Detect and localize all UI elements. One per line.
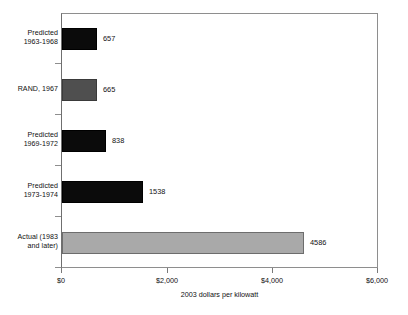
x-axis-tick-3 [377,268,378,273]
bar-0 [62,28,97,50]
chart-row-2: Predicted 1969-1972 838 [0,130,408,152]
category-label-1: RAND, 1967 [0,85,58,94]
bar-3 [62,181,143,203]
category-label-0: Predicted 1963-1968 [0,29,58,46]
category-label-3: Predicted 1973-1974 [0,182,58,199]
bar-chart-figure: Predicted 1963-1968 657 RAND, 1967 665 P… [0,0,408,315]
x-axis-label-2: $4,000 [242,276,302,285]
x-axis-tick-0 [61,268,62,273]
bar-4 [62,232,304,254]
bar-value-1: 665 [103,85,115,94]
category-label-4: Actual (1983 and later) [0,233,58,250]
x-axis-title: 2003 dollars per kilowatt [61,290,378,299]
chart-row-1: RAND, 1967 665 [0,79,408,101]
y-axis-tick-1 [55,114,61,115]
chart-row-4: Actual (1983 and later) 4586 [0,232,408,254]
y-axis-tick-0 [55,63,61,64]
bar-value-3: 1538 [149,187,165,196]
bar-value-0: 657 [103,34,115,43]
y-axis-tick-2 [55,165,61,166]
x-axis-label-1: $2,000 [137,276,197,285]
y-axis-tick-3 [55,216,61,217]
bar-1 [62,79,97,101]
chart-row-3: Predicted 1973-1974 1538 [0,181,408,203]
x-axis-label-0: $0 [31,276,91,285]
category-label-2: Predicted 1969-1972 [0,131,58,148]
x-axis-tick-1 [167,268,168,273]
bar-value-4: 4586 [310,238,326,247]
chart-row-0: Predicted 1963-1968 657 [0,28,408,50]
bar-2 [62,130,106,152]
x-axis-tick-2 [272,268,273,273]
bar-value-2: 838 [112,136,124,145]
x-axis-label-3: $6,000 [347,276,407,285]
